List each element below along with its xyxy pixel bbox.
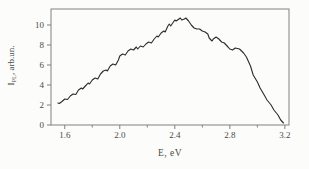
x-tick-label: 1.6	[59, 130, 71, 140]
y-tick-label: 6	[40, 60, 45, 70]
y-tick-label: 8	[40, 40, 45, 50]
y-axis-label-units: , arb.un.	[6, 45, 16, 75]
y-axis-label: IPL, arb.un.	[6, 28, 17, 104]
y-tick-label: 4	[40, 80, 45, 90]
axis-tick-labels: 1.62.02.42.83.20246810	[35, 20, 290, 140]
x-tick-label: 3.2	[279, 130, 290, 140]
pl-spectrum-curve	[58, 18, 284, 123]
x-tick-label: 2.8	[224, 130, 236, 140]
pl-spectrum-polyline	[58, 18, 284, 123]
y-tick-label: 10	[35, 20, 45, 30]
pl-spectrum-figure: 1.62.02.42.83.20246810 E, eV IPL, arb.un…	[0, 0, 309, 169]
y-axis-label-symbol: I	[6, 83, 16, 86]
y-tick-label: 2	[40, 100, 45, 110]
y-axis-label-subscript: PL	[10, 75, 17, 83]
x-tick-label: 2.4	[169, 130, 181, 140]
axis-ticks	[47, 25, 285, 129]
chart-canvas: 1.62.02.42.83.20246810	[0, 0, 309, 169]
x-tick-label: 2.0	[114, 130, 126, 140]
plot-frame	[51, 9, 289, 125]
x-axis-label: E, eV	[51, 148, 289, 158]
y-tick-label: 0	[40, 120, 45, 130]
